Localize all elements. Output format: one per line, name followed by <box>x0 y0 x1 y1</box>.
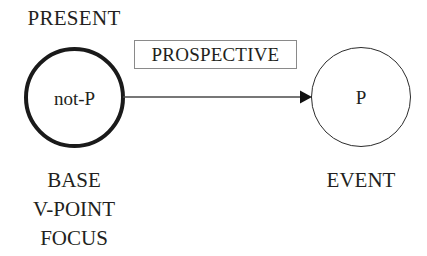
base-caption-1: BASE <box>8 166 140 195</box>
base-node-label: not-P <box>28 88 121 107</box>
event-caption-1: EVENT <box>296 166 426 195</box>
prospective-relation-box: PROSPECTIVE <box>134 40 297 69</box>
present-label: PRESENT <box>0 8 148 29</box>
base-node-circle: not-P <box>24 47 125 148</box>
event-node-label: P <box>312 88 410 107</box>
event-node-circle: P <box>311 47 411 147</box>
base-caption-2: V-POINT <box>8 195 140 224</box>
base-node-captions: BASE V-POINT FOCUS <box>8 166 140 253</box>
prospective-arrow <box>118 84 318 110</box>
arrow-head-icon <box>300 91 312 104</box>
prospective-label: PROSPECTIVE <box>152 45 280 64</box>
event-node-captions: EVENT <box>296 166 426 195</box>
base-caption-3: FOCUS <box>8 224 140 253</box>
diagram-canvas: PRESENT not-P P PROSPECTIVE BASE V-POINT… <box>0 0 427 256</box>
